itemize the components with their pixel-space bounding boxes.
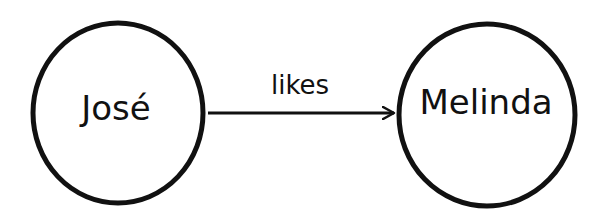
node-jose-label: José — [81, 88, 150, 128]
node-melinda-label: Melinda — [419, 82, 552, 122]
diagram-canvas: José Melinda likes — [0, 0, 598, 214]
edge-likes-label: likes — [271, 70, 329, 100]
